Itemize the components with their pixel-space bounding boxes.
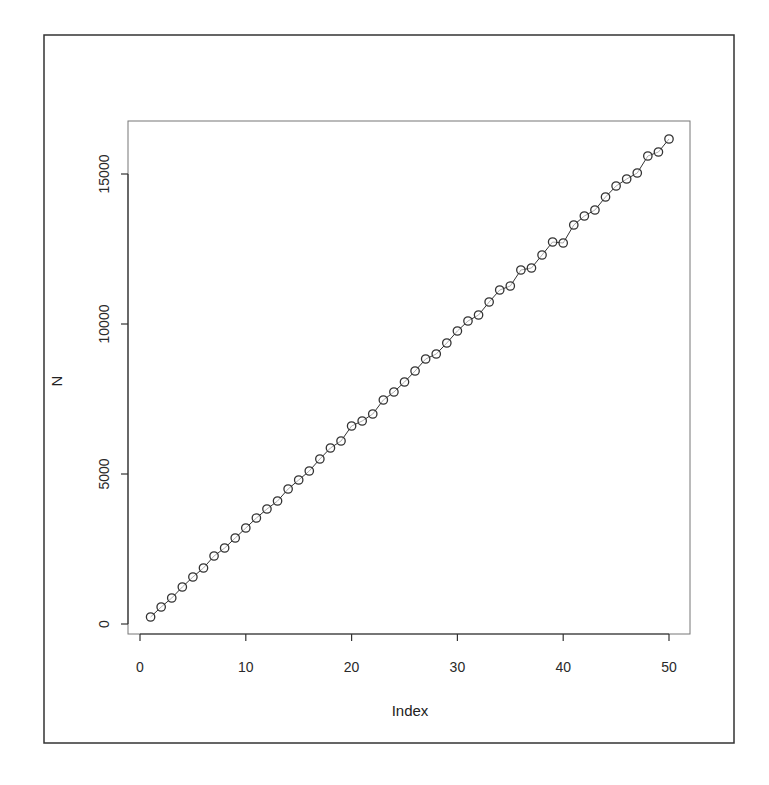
x-axis: 01020304050 xyxy=(136,634,677,675)
data-point-marker xyxy=(284,485,292,493)
data-point-marker xyxy=(485,298,493,306)
data-point-marker xyxy=(210,552,218,560)
data-point-marker xyxy=(432,350,440,358)
data-point-marker xyxy=(559,239,567,247)
data-point-marker xyxy=(464,317,472,325)
data-point-marker xyxy=(633,169,641,177)
data-point-marker xyxy=(601,193,609,201)
data-point-marker xyxy=(295,476,303,484)
data-point-marker xyxy=(263,505,271,513)
data-point-marker xyxy=(622,175,630,183)
data-point-marker xyxy=(400,378,408,386)
data-point-marker xyxy=(178,583,186,591)
x-tick-label: 0 xyxy=(136,659,144,675)
data-point-marker xyxy=(242,524,250,532)
data-point-marker xyxy=(305,467,313,475)
data-point-marker xyxy=(538,251,546,259)
data-point-marker xyxy=(347,422,355,430)
data-point-marker xyxy=(168,594,176,602)
data-point-marker xyxy=(421,355,429,363)
data-point-marker xyxy=(443,339,451,347)
y-tick-label: 0 xyxy=(96,620,112,628)
data-point-marker xyxy=(326,444,334,452)
chart: 050001000015000 01020304050 Index N xyxy=(0,0,769,785)
data-point-marker xyxy=(358,417,366,425)
x-tick-label: 30 xyxy=(450,659,466,675)
y-tick-label: 15000 xyxy=(96,154,112,193)
data-point-marker xyxy=(665,135,673,143)
data-point-marker xyxy=(252,514,260,522)
x-tick-label: 10 xyxy=(238,659,254,675)
data-point-marker xyxy=(199,564,207,572)
y-tick-label: 10000 xyxy=(96,304,112,343)
y-tick-label: 5000 xyxy=(96,458,112,489)
data-point-marker xyxy=(337,437,345,445)
data-point-marker xyxy=(654,148,662,156)
y-axis: 050001000015000 xyxy=(96,154,128,628)
outer-frame xyxy=(44,35,734,743)
data-points xyxy=(146,135,673,621)
data-point-marker xyxy=(453,327,461,335)
y-axis-title: N xyxy=(48,376,65,387)
x-axis-title: Index xyxy=(392,702,429,719)
data-point-marker xyxy=(189,573,197,581)
x-tick-label: 20 xyxy=(344,659,360,675)
data-point-marker xyxy=(644,152,652,160)
data-point-marker xyxy=(548,238,556,246)
data-point-marker xyxy=(474,311,482,319)
data-point-marker xyxy=(220,544,228,552)
data-point-marker xyxy=(273,497,281,505)
data-point-marker xyxy=(527,264,535,272)
data-point-marker xyxy=(379,396,387,404)
data-point-marker xyxy=(369,410,377,418)
data-point-marker xyxy=(580,212,588,220)
data-point-marker xyxy=(517,266,525,274)
data-point-marker xyxy=(506,282,514,290)
data-point-marker xyxy=(591,206,599,214)
data-point-marker xyxy=(390,388,398,396)
data-point-marker xyxy=(157,603,165,611)
data-point-marker xyxy=(231,534,239,542)
data-point-marker xyxy=(146,613,154,621)
data-point-marker xyxy=(496,286,504,294)
data-point-marker xyxy=(316,455,324,463)
x-tick-label: 40 xyxy=(555,659,571,675)
data-point-marker xyxy=(612,182,620,190)
x-tick-label: 50 xyxy=(661,659,677,675)
data-point-marker xyxy=(411,367,419,375)
data-point-marker xyxy=(570,221,578,229)
